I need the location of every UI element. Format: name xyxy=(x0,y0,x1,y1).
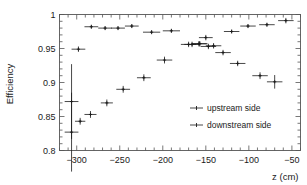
chart-svg: −300−250−200−150−100−50z (cm)0.80.850.90… xyxy=(0,0,307,185)
y-tick-label: 0.9 xyxy=(43,78,56,88)
y-tick-label: 1 xyxy=(50,10,55,20)
y-axis-title: Efficiency xyxy=(4,64,15,105)
x-tick-label: −50 xyxy=(284,155,299,165)
data-point xyxy=(143,30,160,34)
x-tick-label: −100 xyxy=(239,155,259,165)
data-point xyxy=(191,41,206,46)
frame-rect xyxy=(60,15,301,151)
data-point xyxy=(75,118,85,125)
data-point xyxy=(267,75,282,89)
efficiency-vs-z-chart: −300−250−200−150−100−50z (cm)0.80.850.90… xyxy=(0,0,307,185)
data-point xyxy=(125,24,139,28)
data-point xyxy=(116,86,130,93)
data-point xyxy=(111,26,125,30)
y-tick-label: 0.85 xyxy=(38,112,56,122)
data-point xyxy=(84,111,96,118)
data-point xyxy=(240,24,255,28)
x-tick-label: −150 xyxy=(196,155,216,165)
data-point xyxy=(215,50,230,55)
data-point xyxy=(157,57,172,64)
legend: upstream sidedownstream side xyxy=(190,103,272,130)
legend-entry[interactable]: upstream side xyxy=(190,103,261,113)
data-point xyxy=(137,74,151,81)
data-point xyxy=(84,25,98,29)
y-tick-label: 0.8 xyxy=(43,146,56,156)
legend-label: downstream side xyxy=(207,120,272,130)
y-tick-label: 0.95 xyxy=(38,44,56,54)
data-point xyxy=(181,42,196,47)
x-tick-label: −200 xyxy=(153,155,173,165)
x-axis-title: z (cm) xyxy=(272,171,298,182)
data-point xyxy=(259,23,274,27)
data-point xyxy=(163,29,180,33)
y-axis: 0.80.850.90.951Efficiency xyxy=(4,10,301,156)
data-point xyxy=(230,61,245,66)
plot-frame xyxy=(60,15,301,151)
data-point xyxy=(252,72,267,79)
data-point xyxy=(199,35,213,40)
data-point xyxy=(101,100,113,107)
data-point xyxy=(98,26,112,30)
x-axis: −300−250−200−150−100−50z (cm) xyxy=(60,15,301,182)
data-point xyxy=(278,18,293,23)
x-tick-label: −250 xyxy=(110,155,130,165)
x-tick-label: −300 xyxy=(67,155,87,165)
data-point xyxy=(72,46,86,51)
data-point xyxy=(224,29,239,33)
legend-label: upstream side xyxy=(207,103,261,113)
legend-entry[interactable]: downstream side xyxy=(190,120,272,130)
